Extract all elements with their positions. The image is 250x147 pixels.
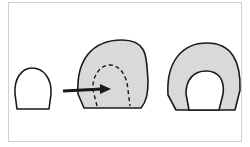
- final-inner-opening: [186, 71, 223, 110]
- small-shape: [15, 68, 51, 109]
- diagram-canvas: [0, 0, 250, 147]
- expanded-shape: [78, 40, 148, 108]
